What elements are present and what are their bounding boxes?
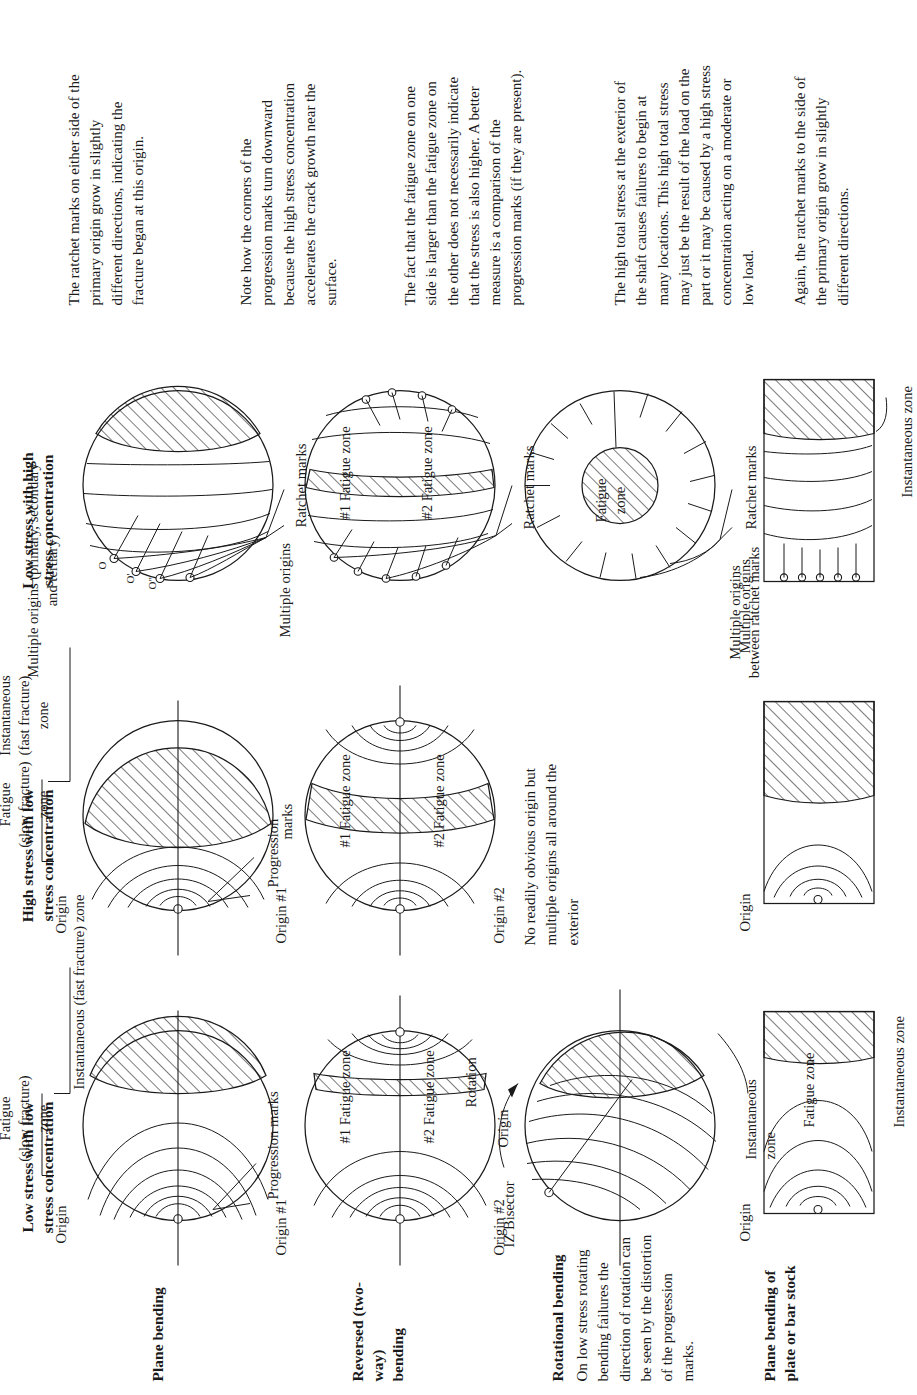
diagram-reversed-bending-low-low bbox=[300, 1005, 500, 1225]
label-rotation-r3c1: Rotation bbox=[462, 1057, 481, 1107]
label-origin-1-r2c1: Origin #1 bbox=[272, 1199, 291, 1255]
row-header-reversed-bending: Reversed (two-way) bending bbox=[348, 1251, 408, 1381]
note-no-obvious-origin-r3c2: No readily obvious origin but multiple o… bbox=[520, 759, 584, 945]
label-fatigue-zone-r3c3: Fatigue zone bbox=[592, 461, 630, 539]
diagram-plane-bending-low-low bbox=[78, 1005, 278, 1225]
label-origin-r1c1: Origin bbox=[52, 1205, 71, 1243]
label-origin-1-r2c2: Origin #1 bbox=[272, 887, 291, 943]
diagram-rotational-bending-low-low bbox=[520, 985, 730, 1225]
label-origin-r1c2: Origin bbox=[52, 895, 71, 933]
label-fatigue-zone-1-r2c2: #1 Fatigue zone bbox=[336, 754, 355, 847]
note-high-total-stress: The high total stress at the exterior of… bbox=[610, 61, 759, 305]
label-ratchet-marks-r3c3: Ratchet marks bbox=[742, 445, 761, 529]
label-origin-2-r2c2: Origin #2 bbox=[490, 887, 509, 943]
diagram-reversed-bending-high-low bbox=[300, 695, 500, 915]
label-fatigue-zone-1-r2c3: #1 Fatigue zone bbox=[336, 426, 355, 519]
note-ratchet-marks-again: Again, the ratchet marks to the side of … bbox=[790, 69, 854, 305]
inst-line1-c2: Instantaneous bbox=[0, 655, 15, 775]
label-fatigue-zone-r4c1: Fatigue zone bbox=[800, 1052, 819, 1127]
label-iz-bisector-r3c1: IZ Bisector bbox=[500, 1181, 519, 1247]
label-instantaneous-zone-r4c1: Instantaneous zone bbox=[890, 1016, 909, 1127]
label-fatigue-zone-bracket-r1c1: Fatigue (slow fracture) zone bbox=[0, 1063, 53, 1173]
diagram-plane-bending-high-low bbox=[78, 695, 278, 915]
label-origin-r4c1: Origin bbox=[736, 1203, 755, 1241]
label-fatigue-zone-2-r2c3: #2 Fatigue zone bbox=[418, 426, 437, 519]
note-fatigue-zone-comparison: The fact that the fatigue zone on one si… bbox=[400, 65, 528, 305]
row-header-rotational-bending: Rotational bending bbox=[548, 1231, 568, 1381]
note-ratchet-marks-primary-origin: The ratchet marks on either side of the … bbox=[64, 69, 149, 305]
row-note-rotational-bending: On low stress rotating bending failures … bbox=[572, 1229, 700, 1381]
label-fatigue-zone-1-r2c1: #1 Fatigue zone bbox=[336, 1050, 355, 1143]
fatigue-line2: (slow fracture) bbox=[15, 1063, 34, 1173]
label-origin-primary: O bbox=[96, 561, 108, 569]
label-origin-r3c1: Origin bbox=[494, 1109, 513, 1147]
label-marks-r1c2: marks bbox=[278, 803, 297, 839]
fatigue-line1: Fatigue bbox=[0, 1063, 15, 1173]
row-header-plane-bending: Plane bending bbox=[148, 1261, 168, 1381]
label-fatigue-zone-2-r2c1: #2 Fatigue zone bbox=[420, 1050, 439, 1143]
label-multiple-origins-r4c3: Multiple origins bbox=[736, 559, 755, 653]
diagram-reversed-bending-low-high bbox=[300, 355, 515, 585]
note-progression-marks-turn-down: Note how the corners of the progression … bbox=[236, 65, 342, 305]
label-multiple-origins-r2c3: Multiple origins bbox=[276, 543, 295, 637]
label-origin-r4c2: Origin bbox=[736, 893, 755, 931]
label-instantaneous-zone-r4c3: Instantaneous zone bbox=[898, 386, 917, 497]
diagram-plane-bending-low-high bbox=[78, 355, 288, 585]
label-origin-secondary: O' bbox=[124, 573, 136, 583]
label-origin-tertiary: O" bbox=[146, 577, 158, 589]
label-fatigue-zone-2-r2c2: #2 Fatigue zone bbox=[430, 754, 449, 847]
row-header-plate-bar-stock: Plane bending of plate or bar stock bbox=[760, 1231, 800, 1381]
diagram-plate-bending-low-high bbox=[762, 368, 892, 583]
diagram-plate-bending-low-low bbox=[762, 1005, 882, 1215]
label-instantaneous-zone-r1c1: Instantaneous (fast fracture) zone bbox=[70, 894, 89, 1089]
label-progression-marks-r1c1: Progression marks bbox=[264, 1091, 283, 1199]
leader-instantaneous-zone-r3c1 bbox=[716, 1015, 756, 1095]
label-multiple-origins-pst-r1c3: Multiple origins (primary, secondary and… bbox=[24, 445, 62, 695]
diagram-plate-bending-high-low bbox=[762, 695, 882, 905]
